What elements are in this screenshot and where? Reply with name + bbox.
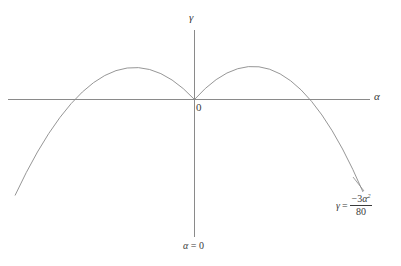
numerator-coefficient: −3	[352, 193, 363, 204]
numerator-exponent: 2	[367, 193, 370, 199]
equation-numerator: −3α2	[350, 194, 373, 205]
alpha-equals-zero-label: α = 0	[183, 241, 204, 251]
x-axis-label: α	[374, 91, 380, 102]
figure-canvas: γ α 0 α = 0 γ= −3α2 80	[0, 0, 401, 266]
equation-lhs: γ	[336, 201, 340, 211]
plot-area	[0, 0, 401, 266]
equation-denominator: 80	[354, 206, 368, 217]
parabola-curve	[15, 66, 363, 195]
origin-label: 0	[196, 102, 202, 113]
curve-equation: γ= −3α2 80	[336, 194, 372, 217]
equation-leader-line	[353, 177, 364, 191]
equation-equals-sign: =	[342, 201, 348, 211]
alpha-equals-zero-relation: = 0	[188, 240, 204, 251]
equation-fraction: −3α2 80	[350, 194, 373, 217]
y-axis-label: γ	[189, 12, 193, 23]
